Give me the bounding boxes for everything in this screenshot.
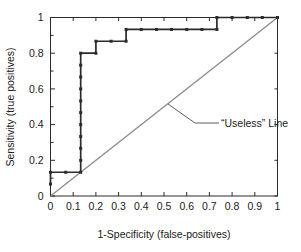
y-tick-label: 0 (38, 190, 44, 202)
roc-chart-figure: “Useless” Line 00.10.20.30.40.50.60.70.8… (0, 0, 301, 252)
roc-marker (79, 171, 82, 174)
x-tick-label: 0.5 (157, 200, 172, 212)
y-tick-label: 1 (38, 11, 44, 23)
roc-marker (231, 16, 234, 19)
roc-marker (64, 171, 67, 174)
roc-marker (79, 147, 82, 150)
useless-diagonal-line (51, 18, 278, 197)
x-tick-label: 1 (275, 200, 281, 212)
x-tick-label: 0.3 (111, 200, 126, 212)
roc-marker (79, 75, 82, 78)
roc-path (51, 18, 278, 185)
roc-chart-canvas: “Useless” Line 00.10.20.30.40.50.60.70.8… (0, 0, 301, 252)
roc-marker (276, 16, 279, 19)
y-axis-tick-labels: 00.20.40.60.81 (29, 11, 44, 202)
roc-marker (79, 111, 82, 114)
roc-marker (79, 87, 82, 90)
useless-line-annotation: “Useless” Line (221, 117, 288, 129)
roc-marker (155, 28, 158, 31)
x-tick-label: 0.9 (247, 200, 262, 212)
y-tick-label: 0.8 (29, 47, 44, 59)
y-tick-label: 0.6 (29, 83, 44, 95)
roc-marker (215, 16, 218, 19)
x-tick-label: 0.4 (134, 200, 149, 212)
roc-marker (94, 52, 97, 55)
y-tick-label: 0.2 (29, 154, 44, 166)
x-axis-tick-labels: 00.10.20.30.40.50.60.70.80.91 (48, 200, 281, 212)
roc-marker (200, 28, 203, 31)
x-tick-label: 0.6 (179, 200, 194, 212)
y-tick-label: 0.4 (29, 118, 44, 130)
x-tick-label: 0.8 (225, 200, 240, 212)
roc-marker (170, 28, 173, 31)
roc-marker (246, 16, 249, 19)
x-tick-label: 0 (48, 200, 54, 212)
y-axis-title: Sensitivity (true positives) (4, 47, 16, 166)
roc-marker (79, 64, 82, 67)
roc-marker (79, 99, 82, 102)
roc-marker (110, 40, 113, 43)
annotation-leader-line (168, 104, 219, 123)
roc-marker (49, 171, 52, 174)
roc-marker (140, 28, 143, 31)
roc-marker (79, 159, 82, 162)
roc-marker (79, 52, 82, 55)
roc-marker (79, 135, 82, 138)
roc-marker (215, 28, 218, 31)
roc-marker (94, 40, 97, 43)
roc-marker (125, 28, 128, 31)
diagonal-segment (51, 18, 278, 197)
x-tick-label: 0.7 (202, 200, 217, 212)
roc-marker (49, 183, 52, 186)
x-tick-label: 0.2 (89, 200, 104, 212)
x-axis-title: 1-Specificity (false-positives) (97, 228, 230, 240)
x-tick-label: 0.1 (66, 200, 81, 212)
roc-step-curve (51, 18, 278, 185)
roc-marker (125, 40, 128, 43)
roc-marker (185, 28, 188, 31)
roc-marker (261, 16, 264, 19)
roc-data-markers (49, 16, 279, 186)
roc-marker (79, 123, 82, 126)
